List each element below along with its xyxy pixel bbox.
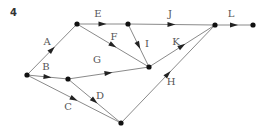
nodes-group: [24, 21, 255, 125]
arrowhead-icon: [134, 41, 142, 50]
arrowhead-icon: [99, 22, 107, 27]
edge-label-g: G: [93, 54, 101, 65]
edge-label-h: H: [167, 76, 176, 87]
node-n4: [65, 76, 70, 81]
edge-label-k: K: [172, 36, 180, 47]
edge-label-d: D: [96, 90, 104, 101]
arrowhead-icon: [108, 41, 117, 49]
edges-group: [27, 22, 253, 124]
node-n7: [212, 22, 217, 27]
node-n1: [24, 72, 29, 77]
edge-label-i: I: [145, 38, 149, 49]
node-n2: [74, 21, 79, 26]
network-diagram: 4 ABCDEFGIJKHL: [0, 0, 263, 135]
edge-label-l: L: [228, 8, 235, 19]
edge-label-c: C: [64, 101, 72, 112]
edge-label-f: F: [111, 31, 118, 42]
arrowhead-icon: [167, 22, 175, 27]
arrowhead-icon: [230, 23, 238, 28]
edge-label-j: J: [167, 8, 172, 19]
edge-label-b: B: [42, 61, 49, 72]
edge-label-a: A: [42, 36, 51, 47]
node-n6: [118, 120, 123, 125]
node-n3: [125, 21, 130, 26]
figure-number: 4: [10, 7, 17, 18]
node-n5: [146, 64, 151, 69]
arrowhead-icon: [43, 74, 51, 80]
node-n8: [250, 22, 255, 27]
edge-label-e: E: [94, 8, 101, 19]
